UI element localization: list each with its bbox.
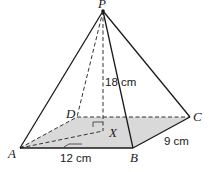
vertex-label-c: C	[193, 109, 202, 124]
pyramid-diagram: P A B C D X 18 cm 12 cm 9 cm	[0, 0, 209, 172]
bc-length-label: 9 cm	[164, 135, 189, 147]
vertex-label-b: B	[130, 150, 138, 165]
vertex-label-d: D	[65, 106, 76, 121]
height-label: 18 cm	[105, 76, 136, 88]
edge-pd-hidden	[77, 11, 103, 117]
edge-pc	[103, 11, 190, 117]
vertex-label-x: X	[108, 125, 118, 140]
ab-length-label: 12 cm	[60, 152, 91, 164]
vertex-label-p: P	[97, 0, 106, 11]
vertex-label-a: A	[7, 146, 16, 161]
